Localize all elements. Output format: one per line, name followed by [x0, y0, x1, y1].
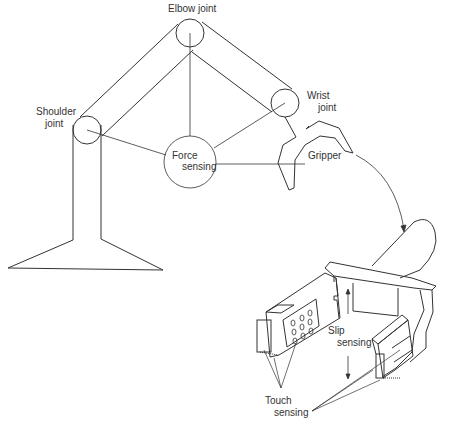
label-force-sensing-2: sensing [182, 161, 216, 172]
label-elbow-joint: Elbow joint [168, 3, 216, 14]
robot-arm-diagram [0, 0, 456, 422]
detail-arrow [356, 155, 406, 232]
label-slip-sensing-1: Slip [328, 325, 345, 336]
label-wrist-joint-2: joint [318, 102, 336, 113]
label-gripper: Gripper [308, 150, 341, 161]
forearm [192, 22, 299, 117]
label-touch-sensing-2: sensing [274, 407, 308, 418]
label-shoulder-joint-2: joint [45, 118, 63, 129]
label-wrist-joint-1: Wrist [307, 90, 330, 101]
label-force-sensing-1: Force [172, 150, 198, 161]
gripper-detail [257, 220, 436, 378]
touch-sensor-array [291, 310, 313, 344]
label-slip-sensing-2: sensing [337, 337, 371, 348]
upper-arm [73, 19, 204, 144]
label-touch-sensing-1: Touch [265, 395, 292, 406]
slip-sensing-arrows [346, 289, 350, 379]
label-shoulder-joint-1: Shoulder [36, 106, 76, 117]
